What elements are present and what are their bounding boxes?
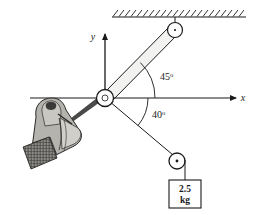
mass-block: 2.5 kg [169, 180, 201, 208]
angle-40-degree-symbol: o [162, 109, 165, 116]
ceiling-hatching [113, 10, 244, 17]
mass-unit-label: kg [180, 195, 190, 205]
arc-40 [138, 98, 148, 126]
angle-45-degree-symbol: o [170, 71, 173, 78]
ceiling-support [112, 10, 246, 17]
pin-center-dot [174, 29, 176, 31]
top-pin-joint [168, 17, 183, 38]
diagram-canvas: y x 45o 40o [0, 0, 254, 215]
hub-circle [97, 90, 114, 107]
angle-40-value: 40 [152, 109, 162, 120]
angle-45-value: 45 [160, 71, 170, 82]
toe-shadow [46, 102, 57, 110]
y-axis-label: y [90, 31, 96, 42]
hub-joint [97, 90, 114, 107]
x-axis-label: x [240, 92, 246, 103]
pulley-center-dot [176, 160, 179, 163]
angle-40-label: 40o [152, 109, 165, 121]
mechanics-diagram: y x 45o 40o [0, 0, 254, 215]
mass-value-label: 2.5 [179, 184, 191, 194]
lower-pulley [169, 153, 185, 180]
rigid-link-bar [104, 24, 180, 102]
bar-body [104, 24, 180, 102]
foot-in-sock-illustration [23, 98, 81, 169]
angle-45-label: 45o [160, 71, 173, 83]
